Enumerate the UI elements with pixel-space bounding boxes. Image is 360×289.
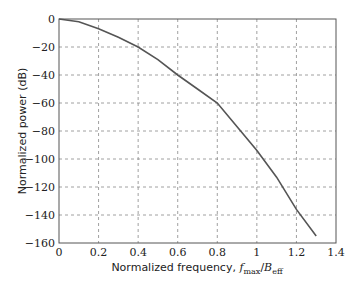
x-tick-label: 0.2 xyxy=(90,246,108,259)
line-chart: 00.20.40.60.811.21.40−20−40−60−80−100−12… xyxy=(0,0,360,289)
x-tick-label: 0.6 xyxy=(169,246,187,259)
y-tick-label: −160 xyxy=(25,237,55,250)
x-tick-label: 0 xyxy=(56,246,63,259)
x-tick-label: 1.2 xyxy=(288,246,306,259)
y-tick-label: −100 xyxy=(25,153,55,166)
y-axis-label: Normalized power (dB) xyxy=(16,68,29,194)
y-tick-label: 0 xyxy=(48,13,55,26)
x-axis-label: Normalized frequency, fmax/Beff xyxy=(111,261,284,276)
grid-lines xyxy=(59,19,336,243)
y-tick-label: −120 xyxy=(25,181,55,194)
x-tick-label: 0.8 xyxy=(209,246,227,259)
y-tick-label: −140 xyxy=(25,209,55,222)
y-tick-label: −20 xyxy=(32,41,55,54)
y-tick-label: −80 xyxy=(32,125,55,138)
x-tick-label: 1.4 xyxy=(327,246,345,259)
power-curve xyxy=(59,19,316,236)
x-tick-label: 1 xyxy=(253,246,260,259)
x-tick-label: 0.4 xyxy=(129,246,147,259)
y-tick-label: −40 xyxy=(32,69,55,82)
y-tick-label: −60 xyxy=(32,97,55,110)
